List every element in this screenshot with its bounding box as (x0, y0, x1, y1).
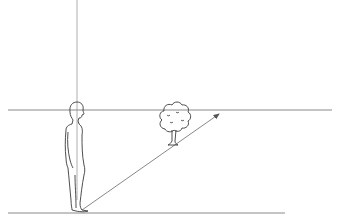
tree-figure (160, 102, 191, 145)
sightline-arrow (82, 114, 219, 210)
perspective-diagram: Perspective: eye level, horizon line and… (0, 0, 343, 223)
diagram-canvas (0, 0, 343, 223)
